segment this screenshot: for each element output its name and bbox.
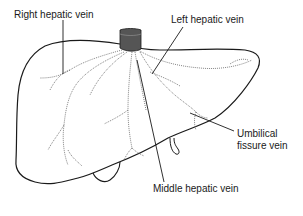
label-fissure-vein: fissure vein [237,140,288,151]
liver-illustration [0,0,303,216]
label-umbilical: Umbilical [237,128,278,139]
label-right-hepatic-vein: Right hepatic vein [14,9,94,20]
label-middle-hepatic-vein: Middle hepatic vein [153,183,239,194]
liver-diagram: Right hepatic vein Left hepatic vein Umb… [0,0,303,216]
leader-middle-hepatic [137,60,164,182]
label-left-hepatic-vein: Left hepatic vein [171,14,244,25]
right-hepatic-vein-branches [40,50,252,166]
ivc-stump [120,29,141,52]
ligamentum-teres [170,138,179,154]
leader-umbilical-fissure [190,113,234,131]
